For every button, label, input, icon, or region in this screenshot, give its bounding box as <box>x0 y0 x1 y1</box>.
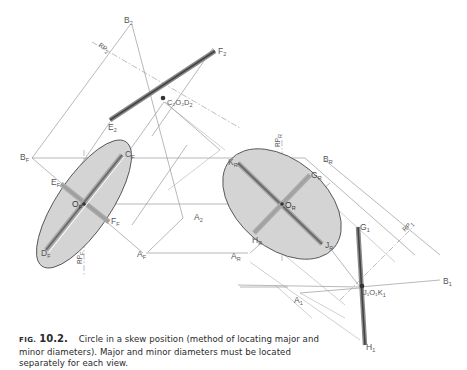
skew-circle-diagram: B2 RP2 F2 C₂O₂D2 E2 A2 BF CF EF OF FF DF… <box>0 0 467 370</box>
label-ef: EF <box>51 177 61 188</box>
label-br: BR <box>323 154 333 165</box>
label-h1: H1 <box>366 342 375 353</box>
label-f2: F2 <box>218 46 226 57</box>
label-b1: B1 <box>443 276 452 287</box>
label-e2: E2 <box>108 122 117 133</box>
figure-caption: FIG. 10.2. Circle in a skew position (me… <box>19 333 319 370</box>
label-a2: A2 <box>194 212 203 223</box>
label-ff: FF <box>111 216 120 227</box>
label-j1-o1-k1: J₁O₁K1 <box>363 288 386 298</box>
center-point-of <box>82 202 86 206</box>
figure-label: FIG. <box>19 336 36 344</box>
label-cf: CF <box>125 149 135 160</box>
label-g1: G1 <box>360 222 370 233</box>
center-point-or <box>280 202 284 206</box>
label-af: AF <box>137 249 147 260</box>
figure-number: 10.2. <box>39 333 68 344</box>
label-c2-o2-d2: C₂O₂D2 <box>167 98 193 108</box>
center-point-o2 <box>161 96 166 101</box>
label-bf: BF <box>20 152 30 163</box>
label-a1: A1 <box>294 295 303 306</box>
label-b2: B2 <box>124 15 133 26</box>
